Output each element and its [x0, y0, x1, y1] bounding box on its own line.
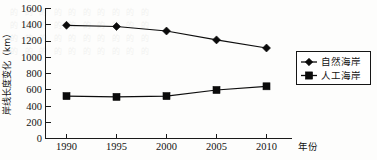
x-tick-label-1990: 1990 [56, 141, 77, 152]
data-point-natural-2005 [213, 36, 221, 44]
data-point-artificial-2005 [213, 87, 220, 94]
data-point-natural-1995 [113, 23, 121, 31]
data-point-artificial-1990 [63, 93, 70, 100]
data-point-artificial-2010 [263, 83, 270, 90]
x-tick-label-2010: 2010 [256, 141, 277, 152]
x-axis: 1990 1995 2000 2005 2010 年份 [46, 134, 319, 153]
data-point-natural-2000 [163, 27, 171, 35]
y-tick-label-1600: 1600 [21, 3, 42, 14]
y-tick-label-200: 200 [26, 117, 42, 128]
legend-label-artificial-coast: 人工海岸 [321, 70, 361, 81]
y-tick-label-400: 400 [26, 101, 42, 112]
y-axis: 1600 1400 1200 1000 800 600 400 200 0 [21, 3, 51, 144]
x-axis-title: 年份 [298, 141, 318, 152]
y-tick-label-1400: 1400 [21, 19, 42, 30]
legend-label-natural-coast: 自然海岸 [321, 56, 361, 67]
x-tick-label-1995: 1995 [106, 141, 127, 152]
y-tick-label-600: 600 [26, 84, 42, 95]
y-tick-label-0: 0 [37, 133, 42, 144]
series-artificial-coast [63, 83, 270, 101]
x-tick-label-2000: 2000 [156, 141, 177, 152]
y-tick-label-800: 800 [26, 68, 42, 79]
y-tick-label-1200: 1200 [21, 35, 42, 46]
data-point-natural-2010 [263, 44, 271, 52]
data-point-natural-1990 [63, 21, 71, 29]
chart-figure: 的 的 的 的 的 的 的 的 的 的 的 的 的 的 的 的 的 的 的 的 … [0, 0, 377, 160]
series-natural-coast [63, 21, 271, 52]
legend-marker-square-icon [305, 72, 312, 79]
y-tick-label-1000: 1000 [21, 52, 42, 63]
data-point-artificial-1995 [113, 93, 120, 100]
x-tick-label-2005: 2005 [206, 141, 227, 152]
line-chart-canvas: 1600 1400 1200 1000 800 600 400 200 0 岸线… [0, 0, 377, 160]
y-axis-title: 岸线长度变化（km） [1, 29, 12, 115]
chart-legend: 自然海岸 人工海岸 [297, 52, 371, 85]
data-point-artificial-2000 [163, 93, 170, 100]
